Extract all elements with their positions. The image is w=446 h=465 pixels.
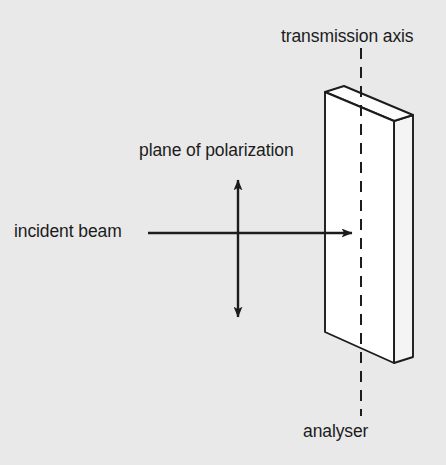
label-transmission-axis: transmission axis (281, 28, 414, 46)
analyser-plate-front-face (325, 92, 394, 363)
label-incident-beam: incident beam (14, 223, 122, 241)
label-plane-of-polarization: plane of polarization (139, 142, 294, 160)
analyser-plate-side-face (394, 115, 413, 363)
label-analyser: analyser (303, 423, 368, 441)
analyser-plate (325, 86, 413, 363)
